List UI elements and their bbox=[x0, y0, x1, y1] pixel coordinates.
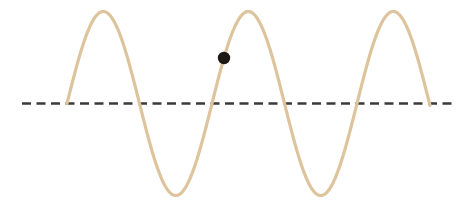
particle-marker bbox=[218, 52, 230, 64]
wave-diagram-canvas bbox=[0, 0, 473, 206]
wave-figure: Transverse wave with a marked particle bbox=[0, 0, 473, 206]
